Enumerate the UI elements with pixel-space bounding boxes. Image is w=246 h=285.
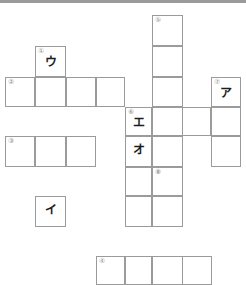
- cell-letter: ア: [212, 86, 240, 100]
- cell-r2c2[interactable]: ①ウ: [35, 46, 66, 77]
- cell-r7c6[interactable]: [152, 196, 183, 227]
- cell-r7c5[interactable]: [125, 196, 152, 227]
- cell-r5c8[interactable]: [211, 136, 241, 167]
- cell-r3c2[interactable]: [35, 77, 66, 107]
- cell-number: ⑥: [128, 108, 134, 116]
- cell-r4c8[interactable]: [211, 107, 241, 136]
- cell-r4c5[interactable]: ⑥エ: [125, 107, 152, 136]
- cell-letter: ウ: [36, 55, 65, 69]
- cell-r3c8[interactable]: ⑦ア: [211, 77, 241, 107]
- cell-r6c6[interactable]: ⑧: [152, 167, 183, 196]
- cell-letter: イ: [36, 203, 65, 217]
- cell-number: ③: [8, 137, 14, 145]
- cell-r3c4[interactable]: [96, 77, 125, 107]
- cell-r5c2[interactable]: [35, 136, 66, 167]
- cell-r3c1[interactable]: ②: [5, 77, 35, 107]
- cell-letter: オ: [126, 143, 151, 157]
- cell-number: ④: [99, 257, 105, 265]
- cell-r3c6[interactable]: [152, 77, 183, 107]
- cell-r9c5[interactable]: [125, 256, 152, 285]
- cell-r9c6[interactable]: [152, 256, 183, 285]
- cell-number: ⑤: [155, 16, 161, 24]
- cell-number: ⑧: [155, 168, 161, 176]
- cell-number: ①: [38, 47, 44, 55]
- cell-r4c6[interactable]: [152, 107, 183, 136]
- cell-r5c5[interactable]: オ: [125, 136, 152, 167]
- cell-number: ②: [8, 78, 14, 86]
- cell-r3c3[interactable]: [66, 77, 96, 107]
- cell-r5c1[interactable]: ③: [5, 136, 35, 167]
- cell-letter: エ: [126, 116, 151, 130]
- cell-r9c4[interactable]: ④: [96, 256, 125, 285]
- cell-r2c6[interactable]: [152, 46, 183, 77]
- cell-r5c3[interactable]: [66, 136, 96, 167]
- top-border-rule: [0, 0, 246, 3]
- cell-r9c7[interactable]: [182, 256, 212, 285]
- cell-r1c6[interactable]: ⑤: [152, 15, 183, 46]
- cell-r6c5[interactable]: [125, 167, 152, 196]
- cell-r4c7[interactable]: [182, 107, 211, 136]
- cell-number: ⑦: [214, 78, 220, 86]
- cell-r5c6[interactable]: [152, 136, 183, 167]
- cell-r7c2[interactable]: イ: [35, 196, 66, 227]
